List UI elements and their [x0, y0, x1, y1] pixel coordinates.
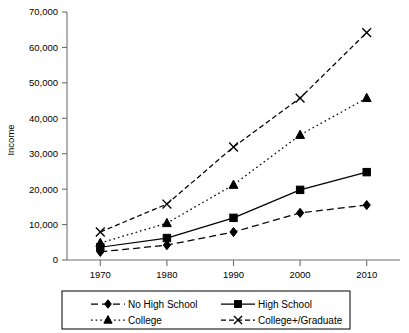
y-axis: 010,00020,00030,00040,00050,00060,00070,… [5, 6, 67, 265]
legend-item-2[interactable]: High School [221, 299, 312, 310]
y-axis-tick-labels: 010,00020,00030,00040,00050,00060,00070,… [29, 6, 58, 265]
x-axis-ticks [100, 260, 366, 266]
marker-triangle [96, 238, 105, 246]
x-tick-label: 1970 [90, 269, 111, 280]
marker-square [163, 234, 170, 241]
x-axis-tick-labels: 19701980199020002010 [90, 269, 378, 280]
y-tick-label: 50,000 [29, 77, 58, 88]
income-by-education-chart: 010,00020,00030,00040,00050,00060,00070,… [0, 0, 409, 333]
legend-item-3[interactable]: College [91, 315, 162, 326]
marker-triangle [296, 130, 305, 138]
legend: No High SchoolHigh SchoolCollegeCollege+… [62, 291, 350, 329]
legend-label: No High School [128, 299, 197, 310]
series-1 [97, 200, 371, 256]
y-tick-label: 40,000 [29, 113, 58, 124]
x-tick-label: 1990 [223, 269, 244, 280]
legend-item-4[interactable]: College+/Graduate [221, 315, 343, 326]
y-tick-label: 60,000 [29, 42, 58, 53]
y-axis-ticks [62, 12, 67, 260]
y-tick-label: 0 [53, 254, 58, 265]
marker-triangle [229, 180, 238, 188]
x-tick-label: 1980 [156, 269, 177, 280]
marker-square [296, 186, 303, 193]
legend-label: College+/Graduate [258, 315, 343, 326]
legend-item-1[interactable]: No High School [91, 299, 197, 310]
legend-entries: No High SchoolHigh SchoolCollegeCollege+… [91, 299, 343, 326]
series-3 [96, 93, 371, 246]
series-line [100, 33, 366, 232]
legend-label: High School [258, 299, 312, 310]
y-tick-label: 70,000 [29, 6, 58, 17]
marker-square [363, 168, 370, 175]
series-4 [96, 28, 371, 236]
marker-diamond [297, 208, 304, 217]
marker-triangle [362, 93, 371, 101]
legend-label: College [128, 315, 162, 326]
marker-square [235, 301, 242, 308]
chart-canvas: 010,00020,00030,00040,00050,00060,00070,… [0, 0, 409, 333]
marker-square [230, 214, 237, 221]
y-tick-label: 20,000 [29, 184, 58, 195]
y-tick-label: 10,000 [29, 219, 58, 230]
y-axis-title: Income [5, 124, 16, 155]
x-tick-label: 2000 [290, 269, 311, 280]
x-tick-label: 2010 [356, 269, 377, 280]
marker-triangle [162, 218, 171, 226]
x-axis: 19701980199020002010 [67, 260, 400, 280]
marker-diamond [230, 227, 237, 236]
y-tick-label: 30,000 [29, 148, 58, 159]
marker-diamond [363, 200, 370, 209]
data-series-layer [96, 28, 371, 256]
marker-diamond [105, 300, 112, 308]
